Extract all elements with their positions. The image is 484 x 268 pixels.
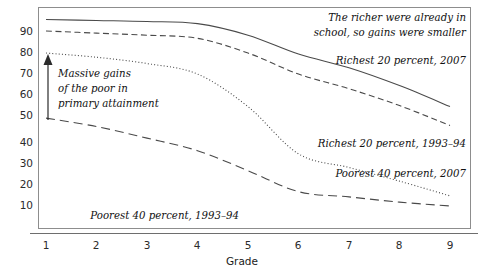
chart-figure: 90 80 70 60 50 40 30 20 10 1 2 3 4 5 6 7…: [0, 0, 484, 268]
y-axis-tick-labels: 90 80 70 60 50 40 30 20 10: [20, 25, 33, 211]
richer-note-line-2: school, so gains were smaller: [314, 27, 467, 38]
y-tick-label: 20: [20, 178, 33, 190]
y-tick-label: 10: [20, 199, 33, 211]
x-tick-label: 4: [194, 239, 201, 251]
x-tick-label: 2: [93, 239, 100, 251]
x-tick-label: 5: [245, 239, 252, 251]
chart-background: [0, 0, 484, 268]
x-axis-title: Grade: [226, 255, 258, 267]
series-label-poorest-1993: Poorest 40 percent, 1993–94: [89, 210, 239, 221]
chart-canvas: 90 80 70 60 50 40 30 20 10 1 2 3 4 5 6 7…: [0, 0, 484, 268]
series-label-poorest-2007: Poorest 40 percent, 2007: [334, 168, 466, 179]
series-label-richest-2007: Richest 20 percent, 2007: [335, 55, 467, 66]
callout-line-2: of the poor in: [58, 83, 128, 94]
x-tick-label: 9: [447, 239, 454, 251]
y-tick-label: 60: [20, 88, 33, 100]
x-tick-label: 1: [43, 239, 50, 251]
series-label-richest-1993: Richest 20 percent, 1993–94: [317, 138, 466, 149]
x-tick-label: 6: [295, 239, 302, 251]
y-tick-label: 80: [20, 46, 33, 58]
y-tick-label: 40: [20, 136, 33, 148]
callout-line-3: primary attainment: [58, 98, 160, 109]
callout-line-1: Massive gains: [57, 68, 131, 79]
richer-note-line-1: The richer were already in: [328, 12, 466, 23]
y-tick-label: 70: [20, 67, 33, 79]
x-tick-label: 3: [144, 239, 151, 251]
y-tick-label: 90: [20, 25, 33, 37]
x-tick-label: 8: [396, 239, 403, 251]
y-tick-label: 30: [20, 157, 33, 169]
x-tick-label: 7: [346, 239, 353, 251]
y-tick-label: 50: [20, 109, 33, 121]
